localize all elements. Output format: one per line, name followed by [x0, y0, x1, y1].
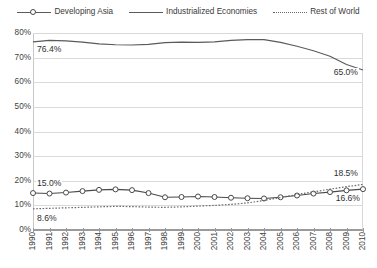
developing-asia-start-label: 15.0%: [36, 179, 62, 188]
series-marker: [328, 190, 333, 195]
y-tick-label: 20%: [1, 177, 31, 185]
legend-label-rest-of-world: Rest of World: [310, 8, 359, 16]
dotted-line-key-icon: [273, 8, 307, 17]
x-tick-label: 1999: [178, 232, 186, 250]
series-lines: [33, 33, 363, 230]
x-tick-label: 1995: [112, 232, 120, 250]
y-tick-label: 50%: [1, 103, 31, 111]
y-tick-label: 10%: [1, 201, 31, 209]
legend-label-industrialized-economies: Industrialized Economies: [166, 8, 257, 16]
series-marker: [361, 187, 366, 192]
y-tick-label: 80%: [1, 29, 31, 37]
x-tick-label: 2003: [244, 232, 252, 250]
series-marker: [212, 195, 217, 200]
series-marker: [344, 188, 349, 193]
y-tick-label: 60%: [1, 78, 31, 86]
x-tick-label: 2006: [293, 232, 301, 250]
series-marker: [146, 191, 151, 196]
series-marker: [80, 189, 85, 194]
series-marker: [245, 196, 250, 201]
x-tick-label: 2001: [211, 232, 219, 250]
x-tick-label: 2010: [359, 232, 367, 250]
line-chart: Developing Asia Industrialized Economies…: [0, 0, 377, 268]
series-marker: [47, 191, 52, 196]
x-tick-label: 1998: [161, 232, 169, 250]
x-tick-label: 1991: [46, 232, 54, 250]
x-tick-label: 1990: [29, 232, 37, 250]
rest-of-world-start-label: 8.6%: [36, 214, 58, 223]
x-tick-label: 2002: [227, 232, 235, 250]
industrialized-start-label: 76.4%: [36, 45, 62, 54]
rest-of-world-end-label: 18.5%: [333, 169, 359, 178]
series-marker: [196, 194, 201, 199]
legend-label-developing-asia: Developing Asia: [54, 8, 113, 16]
chart-legend: Developing Asia Industrialized Economies…: [0, 3, 377, 21]
line-key-icon: [129, 8, 163, 17]
x-tick-label: 2005: [277, 232, 285, 250]
legend-item-developing-asia[interactable]: Developing Asia: [17, 8, 113, 17]
x-tick-label: 1994: [95, 232, 103, 250]
y-axis-labels: 80%70%60%50%40%30%20%10%0%: [0, 0, 31, 268]
x-tick-label: 1993: [79, 232, 87, 250]
series-marker: [179, 195, 184, 200]
series-marker: [97, 187, 102, 192]
developing-asia-end-label: 16.6%: [335, 194, 361, 203]
series-marker: [64, 190, 69, 195]
x-axis-labels: 1990199119921993199419951996199719981999…: [33, 232, 363, 268]
series-line: [33, 40, 363, 70]
x-tick-label: 1992: [62, 232, 70, 250]
x-tick-label: 1997: [145, 232, 153, 250]
y-tick-label: 30%: [1, 152, 31, 160]
industrialized-end-label: 65.0%: [333, 68, 359, 77]
x-tick-label: 2004: [260, 232, 268, 250]
series-marker: [130, 188, 135, 193]
x-tick-label: 2000: [194, 232, 202, 250]
series-marker: [31, 191, 36, 196]
legend-item-industrialized-economies[interactable]: Industrialized Economies: [129, 8, 257, 17]
series-marker: [163, 195, 168, 200]
x-tick-label: 2009: [343, 232, 351, 250]
series-marker: [113, 187, 118, 192]
x-tick-label: 1996: [128, 232, 136, 250]
y-tick-label: 40%: [1, 128, 31, 136]
y-tick-label: 0%: [1, 226, 31, 234]
x-tick-label: 2007: [310, 232, 318, 250]
series-marker: [229, 195, 234, 200]
plot-area: 76.4%65.0%15.0%16.6%8.6%18.5%: [33, 33, 363, 230]
y-tick-label: 70%: [1, 54, 31, 62]
legend-item-rest-of-world[interactable]: Rest of World: [273, 8, 359, 17]
x-tick-label: 2008: [326, 232, 334, 250]
